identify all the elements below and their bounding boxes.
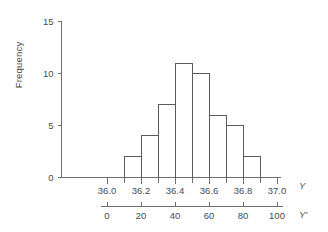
y-axis-tick-label: 5: [24, 120, 54, 131]
x-axis-name-primary: Y: [299, 180, 305, 191]
x-axis-name-secondary: Y': [299, 209, 307, 220]
x-axis-tick-label-primary: 37.0: [255, 185, 299, 196]
y-axis-tick-label: 15: [24, 16, 54, 27]
x-axis-tick-label-secondary: 100: [255, 210, 299, 221]
y-axis-tick-label: 0: [24, 172, 54, 183]
y-axis-tick-label: 10: [24, 68, 54, 79]
chart-canvas: [0, 0, 328, 232]
histogram-figure: Frequency 05101536.036.236.436.636.837.0…: [0, 0, 328, 232]
y-axis-title: Frequency: [13, 15, 27, 115]
